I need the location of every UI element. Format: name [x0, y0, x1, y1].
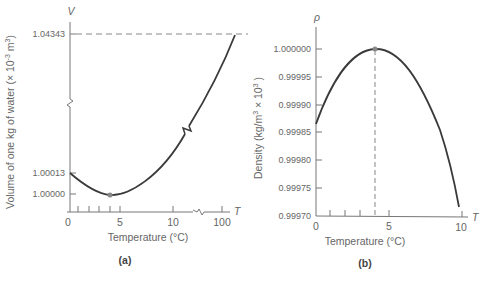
- a-x-axis-label: Temperature (°C): [108, 231, 189, 243]
- panel-b: ρ T 1.000000 0.99995 0.99990 0.99985 0.9…: [252, 11, 480, 269]
- a-curve-upper: [189, 35, 235, 126]
- b-maximum-point: [373, 47, 378, 52]
- a-x-tick-10: 10: [167, 216, 179, 228]
- b-y-tick-3: 0.99985: [278, 127, 311, 137]
- a-y-tick-mid: 1.00013: [32, 168, 65, 178]
- a-caption: (a): [119, 254, 132, 266]
- a-x-tick-5: 5: [117, 216, 123, 228]
- svg-text:Density (kg/m3 × 103 ): Density (kg/m3 × 103 ): [252, 77, 264, 179]
- a-y-axis-label: Volume of one kg of water (× 10-3 m3): [4, 35, 16, 209]
- a-v-symbol: V: [67, 5, 75, 17]
- b-y-axis-label: Density (kg/m3 × 103 ): [252, 77, 264, 179]
- a-x-tick-100: 100: [213, 216, 231, 228]
- a-minimum-point: [108, 193, 113, 198]
- a-y-tick-top: 1.04343: [32, 29, 65, 39]
- b-caption: (b): [358, 257, 371, 269]
- b-x-axis: [316, 216, 468, 217]
- b-y-tick-1: 0.99995: [278, 72, 311, 82]
- b-y-tick-2: 0.99990: [278, 100, 311, 110]
- figure: V T 1.04343 1.00013 1.00000 0 5 10 100 T…: [0, 0, 493, 283]
- a-x-axis-break: [193, 209, 204, 215]
- panel-a: V T 1.04343 1.00013 1.00000 0 5 10 100 T…: [4, 5, 248, 266]
- a-y-tick-low: 1.00000: [32, 189, 65, 199]
- a-curve-lower: [70, 134, 185, 195]
- a-y-axis-break: [67, 99, 73, 107]
- b-y-tick-5: 0.99975: [278, 183, 311, 193]
- b-curve: [316, 49, 459, 207]
- a-curve-break: [183, 126, 191, 134]
- b-x-tick-10: 10: [455, 221, 467, 233]
- a-t-symbol: T: [234, 205, 242, 217]
- b-y-tick-4: 0.99980: [278, 155, 311, 165]
- b-t-symbol: T: [472, 211, 480, 223]
- b-y-tick-0: 1.000000: [273, 44, 311, 54]
- svg-text:Volume of one kg of water (× 1: Volume of one kg of water (× 10-3 m3): [4, 35, 16, 209]
- b-y-ticks: [316, 49, 322, 188]
- b-x-tick-0: 0: [313, 220, 319, 232]
- a-x-tick-0: 0: [65, 216, 71, 228]
- b-x-axis-label: Temperature (°C): [325, 235, 406, 247]
- b-x-tick-5: 5: [386, 220, 392, 232]
- b-rho-symbol: ρ: [313, 11, 320, 23]
- a-y-ticks: [70, 34, 76, 194]
- b-y-tick-6: 0.99970: [278, 211, 311, 221]
